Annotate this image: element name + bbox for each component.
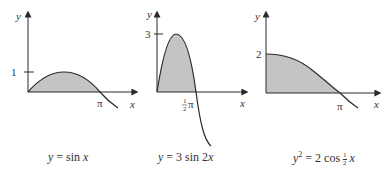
shaded-area [266, 54, 340, 93]
x-axis-label: x [373, 98, 379, 110]
graph-3sin2x: y x 3 1 2 π [145, 8, 247, 146]
x-tick-label: 1 2 π [182, 97, 194, 113]
caption-sin-x: y = sin x [48, 150, 88, 165]
y-axis-label: y [254, 10, 260, 22]
y-tick-label: 3 [145, 28, 151, 40]
svg-text:2: 2 [183, 105, 187, 113]
x-axis-label: x [239, 97, 245, 109]
svg-text:π: π [188, 98, 194, 110]
caption-y2-2cos-half-x: y2 = 2 cos 12 x [293, 150, 355, 167]
y-axis-label: y [146, 8, 152, 20]
y-axis-label: y [15, 10, 21, 22]
y-tick-label: 1 [11, 66, 17, 78]
x-axis-label: x [129, 98, 135, 110]
caption-3sin2x: y = 3 sin 2x [158, 150, 213, 165]
y-tick-label: 2 [256, 48, 262, 60]
graph-sin-x: y x 1 π [11, 10, 137, 110]
svg-text:1: 1 [183, 97, 187, 105]
x-tick-label: π [337, 100, 343, 112]
graph-y2-2cos-half-x: y x 2 π [254, 10, 380, 112]
x-tick-label: π [97, 97, 103, 109]
